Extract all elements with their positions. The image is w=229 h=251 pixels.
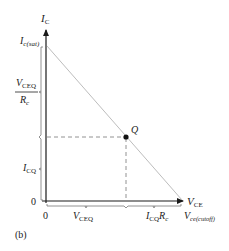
q-label: Q <box>131 124 139 135</box>
left-brace <box>39 47 43 200</box>
icq-rc-label: ICQRc <box>145 210 169 223</box>
load-line <box>47 46 182 200</box>
vceq-label: VCEQ <box>73 210 93 223</box>
y-axis-label: IC <box>40 12 50 26</box>
vceq-over-rc-numerator: VCEQ <box>16 77 36 90</box>
icq-label: ICQ <box>22 162 36 175</box>
origin-x-zero: 0 <box>43 210 48 221</box>
dc-load-line-diagram: Q IC Ic(sat) VCEQ Rc ICQ 0 0 <box>0 0 229 251</box>
x-axis-label: VCE <box>187 195 203 209</box>
vceq-over-rc-denominator: Rc <box>19 94 30 107</box>
q-point <box>123 134 128 139</box>
origin-y-zero: 0 <box>31 196 36 207</box>
vce-cutoff-label: Vce(cutoff) <box>184 210 215 223</box>
figure-caption: (b) <box>15 229 27 241</box>
bottom-brace <box>47 204 181 208</box>
ic-sat-label: Ic(sat) <box>19 35 40 48</box>
